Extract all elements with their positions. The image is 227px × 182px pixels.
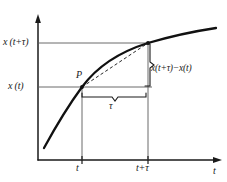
secant-slope-diagram	[0, 0, 227, 182]
function-curve	[44, 28, 216, 148]
guide-lines-group	[38, 43, 152, 160]
interval-tau-label: τ	[109, 101, 112, 111]
secant-line-dashed	[82, 43, 148, 87]
y-axis-tick-label-x-t: x (t)	[8, 81, 23, 91]
difference-expression-label: x(t+τ)−x(t)	[151, 64, 191, 74]
tau-brace	[82, 93, 146, 101]
point-p-label: P	[76, 70, 82, 80]
x-axis-title: t	[213, 166, 216, 176]
y-axis-tick-label-x-t-plus-tau: x (t+τ)	[3, 37, 28, 47]
axes-group	[35, 14, 222, 163]
x-axis-tick-label-t-plus-tau: t+τ	[136, 163, 149, 173]
figure-container: x (t+τ) x (t) t t+τ t P τ x(t+τ)−x(t)	[0, 0, 227, 182]
y-axis-arrowhead	[35, 14, 41, 23]
point-p-marker	[80, 85, 84, 89]
x-axis-tick-label-t: t	[76, 163, 79, 173]
x-axis-arrowhead	[213, 157, 222, 163]
